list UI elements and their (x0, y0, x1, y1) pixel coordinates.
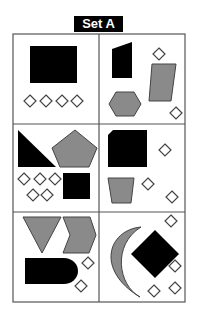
panel-1 (24, 46, 83, 107)
diamond-icon (148, 285, 160, 297)
gray-pentagon (52, 130, 97, 167)
diamond-icon (159, 144, 171, 156)
diamond-icon (165, 215, 177, 227)
gray-parallelogram (149, 64, 176, 101)
diamond-icon (170, 107, 182, 119)
diamond-icon (34, 173, 46, 185)
diamond-icon (75, 280, 87, 292)
diamond-icon (56, 95, 68, 107)
diamond-icon (82, 257, 94, 269)
diamond-icon (41, 189, 53, 201)
diamond-icon (142, 178, 154, 190)
diamond-icon (71, 95, 83, 107)
diamond-icon (166, 191, 178, 203)
gray-trapezoid (108, 178, 134, 203)
gray-inverted-triangle (23, 217, 61, 253)
black-clipped-square (108, 130, 147, 167)
gray-hexagon (109, 92, 141, 116)
black-diamond (131, 230, 179, 278)
gray-crescent (111, 227, 141, 297)
shape-grid (0, 0, 197, 317)
black-triangle (18, 130, 56, 167)
diamond-icon (24, 95, 36, 107)
diamond-icon (40, 95, 52, 107)
black-quadrilateral (112, 42, 132, 78)
diamond-icon (18, 173, 30, 185)
panel-4 (108, 130, 178, 203)
black-square (63, 173, 90, 199)
diamond-icon (169, 282, 181, 294)
gray-chevron (63, 217, 96, 253)
panel-3 (18, 130, 97, 201)
black-bullet (25, 258, 78, 284)
panel-6 (111, 215, 181, 297)
diamond-icon (49, 173, 61, 185)
diamond-icon (27, 189, 39, 201)
panel-2 (109, 42, 182, 119)
black-rectangle (30, 46, 77, 83)
diamond-icon (153, 48, 165, 60)
panel-5 (23, 217, 96, 292)
